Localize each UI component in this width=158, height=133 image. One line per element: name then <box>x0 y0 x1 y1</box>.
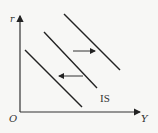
x-axis-label: Y <box>141 113 149 124</box>
origin-label: O <box>9 113 17 124</box>
y-axis-label: r <box>10 14 15 24</box>
is-curve-diagram: r O Y IS <box>0 0 158 133</box>
is-curve-label: IS <box>100 92 110 104</box>
is-curve-left <box>25 50 82 107</box>
is-curve <box>44 32 97 88</box>
